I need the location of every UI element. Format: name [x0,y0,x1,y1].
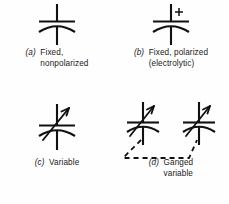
panel-label-a: (a) [26,48,41,69]
symbol-capacitor-fixed-nonpolarized [0,0,114,52]
ganging-dashed-linkage [123,140,197,158]
ganged-capacitor-left [127,102,159,145]
panel-label-b: (b) [134,48,149,69]
plus-sign-icon [175,8,183,16]
panel-label-c: (c) [35,158,49,169]
ganged-capacitor-right [183,102,215,145]
symbol-capacitor-variable [0,100,114,152]
panel-c-variable: (c) Variable [0,100,114,202]
capacitor-symbols-figure: (a) Fixed, nonpolarized [0,0,229,204]
panel-d-ganged-variable: (d) Ganged variable [114,100,228,202]
symbol-capacitor-ganged-variable [114,100,228,160]
panel-a-fixed-nonpolarized: (a) Fixed, nonpolarized [0,0,114,102]
panel-caption-a: Fixed, nonpolarized [40,48,88,69]
caption-a: (a) Fixed, nonpolarized [0,48,114,69]
caption-b: (b) Fixed, polarized (electrolytic) [114,48,228,69]
caption-c: (c) Variable [0,158,114,169]
panel-caption-b: Fixed, polarized (electrolytic) [149,48,208,69]
panel-caption-c: Variable [49,158,79,169]
symbol-capacitor-fixed-polarized [114,0,228,52]
caption-d: (d) Ganged variable [114,158,228,179]
panel-label-d: (d) [149,158,164,179]
panel-b-fixed-polarized: (b) Fixed, polarized (electrolytic) [114,0,228,102]
panel-caption-d: Ganged variable [164,158,194,179]
